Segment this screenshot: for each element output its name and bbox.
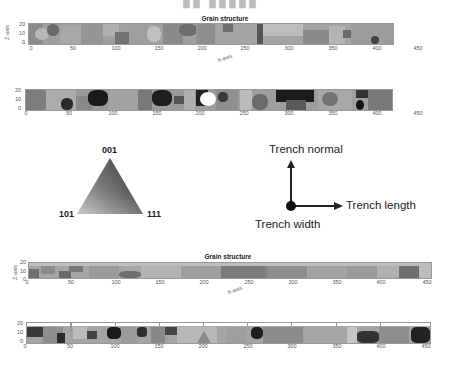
x-tick: 250 <box>235 45 255 51</box>
x-tick: 150 <box>149 343 169 349</box>
x-tick: 350 <box>323 110 343 116</box>
y-tick: 20 <box>13 21 25 27</box>
grain-map <box>25 89 197 111</box>
x-tick: 350 <box>327 279 347 285</box>
grain-map <box>28 23 198 45</box>
x-tick: 100 <box>106 45 126 51</box>
x-tick: 350 <box>327 343 347 349</box>
x-tick: 400 <box>367 45 387 51</box>
x-tick: 200 <box>190 110 210 116</box>
x-axis-label: X-axis <box>226 285 242 296</box>
x-tick: 450 <box>417 279 437 285</box>
axis-label-trench-length: Trench length <box>346 199 416 211</box>
y-tick: 10 <box>13 30 25 36</box>
x-tick: 200 <box>193 343 213 349</box>
y-tick: 10 <box>9 96 21 102</box>
y-axis-label: Z-axis <box>4 25 10 40</box>
x-tick: 250 <box>238 343 258 349</box>
x-tick: 350 <box>323 45 343 51</box>
x-tick: 50 <box>61 279 81 285</box>
x-tick: 100 <box>103 110 123 116</box>
y-tick: 20 <box>14 259 26 265</box>
ipf-label-101: 101 <box>59 209 74 219</box>
y-tick: 10 <box>14 268 26 274</box>
grain-map <box>195 89 393 111</box>
grain-map <box>28 262 432 279</box>
x-tick: 450 <box>408 45 428 51</box>
x-tick: 200 <box>194 279 214 285</box>
x-tick: 300 <box>279 110 299 116</box>
ipf-label-001: 001 <box>102 145 117 155</box>
x-tick: 300 <box>283 279 303 285</box>
y-tick: 10 <box>11 329 23 335</box>
figure-top-title: ▮▮ ▮▮▮▮▮ <box>130 0 310 10</box>
x-tick: 50 <box>63 45 83 51</box>
x-tick: 200 <box>192 45 212 51</box>
x-tick: 150 <box>149 45 169 51</box>
x-tick: 400 <box>371 279 391 285</box>
x-tick: 0 <box>16 110 36 116</box>
axis-label-trench-width: Trench width <box>255 218 320 230</box>
x-tick: 400 <box>367 110 387 116</box>
x-tick: 300 <box>279 45 299 51</box>
panel-title: Grain structure <box>180 15 270 22</box>
x-tick: 250 <box>234 110 254 116</box>
x-tick: 0 <box>15 343 35 349</box>
x-tick: 450 <box>416 343 436 349</box>
x-tick: 0 <box>21 45 41 51</box>
x-tick: 100 <box>105 343 125 349</box>
y-tick: 20 <box>11 320 23 326</box>
x-tick: 50 <box>59 110 79 116</box>
axes-arrows-icon <box>280 158 350 214</box>
panel-title: Grain structure <box>183 253 273 260</box>
x-tick: 300 <box>282 343 302 349</box>
ipf-label-111: 111 <box>147 209 161 219</box>
x-axis-label: X-axis <box>216 53 232 64</box>
x-tick: 50 <box>60 343 80 349</box>
x-tick: 250 <box>239 279 259 285</box>
ipf-triangle <box>75 156 145 218</box>
x-tick: 150 <box>147 110 167 116</box>
x-tick: 450 <box>408 110 428 116</box>
grain-map <box>196 23 394 45</box>
x-tick: 0 <box>17 279 37 285</box>
x-tick: 150 <box>150 279 170 285</box>
grain-map <box>26 322 431 344</box>
axis-label-trench-normal: Trench normal <box>269 143 343 155</box>
x-tick: 100 <box>106 279 126 285</box>
x-tick: 400 <box>371 343 391 349</box>
y-tick: 20 <box>9 87 21 93</box>
